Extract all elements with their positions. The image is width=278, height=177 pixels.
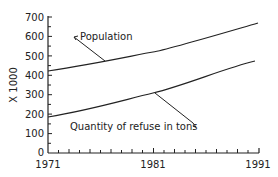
y-axis-label: X 1000 [8,67,19,102]
refuse-arrow [155,93,193,123]
y-tick-600: 600 [25,31,44,42]
x-tick-1971: 1971 [35,159,60,170]
series-refuse-line [48,61,255,117]
y-tick-300: 300 [25,89,44,100]
x-ticks [59,148,249,153]
x-tick-1981: 1981 [140,159,165,170]
y-tick-200: 200 [25,109,44,120]
y-tick-400: 400 [25,70,44,81]
x-tick-1991: 1991 [245,159,270,170]
population-annotation: Population [80,31,133,42]
refuse-annotation: Quantity of refuse in tons [70,121,198,132]
y-tick-500: 500 [25,51,44,62]
line-chart: 700 600 500 400 300 200 100 0 X 1000 197… [0,0,278,177]
y-tick-700: 700 [25,12,44,23]
y-tick-0: 0 [38,147,44,158]
y-tick-100: 100 [25,128,44,139]
